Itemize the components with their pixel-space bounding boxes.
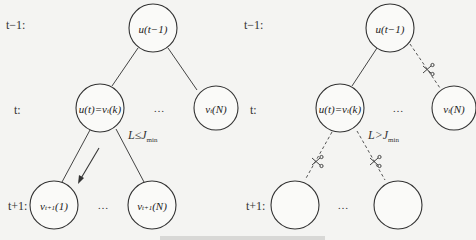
node-root-label: u(t−1) bbox=[139, 23, 168, 36]
edge-root-to-chosen bbox=[112, 48, 138, 86]
scissors-icon bbox=[423, 63, 434, 75]
node-other: vt(N) bbox=[432, 86, 476, 130]
svg-text:u(t)=vt(k): u(t)=vt(k) bbox=[79, 103, 122, 116]
node-chosen-main: u(t)=v bbox=[79, 103, 107, 116]
row-label-t: t: bbox=[250, 103, 257, 117]
condition-label: L>Jmin bbox=[367, 128, 399, 144]
caption-cropped bbox=[160, 236, 325, 240]
svg-text:u(t−1): u(t−1) bbox=[376, 23, 405, 36]
node-other: vt(N) bbox=[194, 86, 238, 130]
svg-text:u(t)=vt(k): u(t)=vt(k) bbox=[319, 103, 362, 116]
svg-text:vt(N): vt(N) bbox=[205, 103, 227, 116]
node-next-first: vt+1(1) bbox=[30, 181, 78, 229]
edge-root-to-other bbox=[168, 48, 197, 90]
ellipsis-t-plus-1: … bbox=[98, 199, 109, 211]
edge-chosen-to-first bbox=[62, 130, 90, 182]
svg-text:vt(N): vt(N) bbox=[443, 103, 465, 116]
edge-root-to-other-pruned bbox=[410, 44, 440, 88]
ellipsis-t: … bbox=[154, 102, 165, 114]
row-label-t-plus-1: t+1: bbox=[246, 199, 265, 213]
node-root: u(t−1) bbox=[366, 4, 414, 52]
svg-text:vt+1(1): vt+1(1) bbox=[40, 200, 68, 213]
ellipsis-t-plus-1: … bbox=[338, 199, 349, 211]
right-panel: t−1: t: t+1: u(t−1) bbox=[244, 4, 476, 229]
condition-label: L≤Jmin bbox=[127, 128, 158, 144]
node-next-last: vt+1(N) bbox=[128, 181, 176, 229]
ellipsis-t: … bbox=[393, 102, 404, 114]
node-chosen: u(t)=vt(k) bbox=[76, 84, 124, 132]
left-panel: t−1: t: t+1: u(t−1) u(t)=vt(k) … vt(N) bbox=[6, 4, 238, 229]
row-label-t-minus-1: t−1: bbox=[6, 18, 25, 32]
row-label-t-minus-1: t−1: bbox=[244, 18, 263, 32]
svg-text:vt+1(N): vt+1(N) bbox=[137, 200, 167, 213]
expand-arrow-icon bbox=[78, 148, 99, 184]
row-label-t: t: bbox=[14, 103, 21, 117]
node-next-first-pruned bbox=[271, 181, 319, 229]
edge-root-to-chosen bbox=[352, 48, 377, 86]
pruning-diagram: t−1: t: t+1: u(t−1) u(t)=vt(k) … vt(N) bbox=[0, 0, 476, 240]
node-root: u(t−1) bbox=[129, 4, 177, 52]
row-label-t-plus-1: t+1: bbox=[8, 199, 27, 213]
edge-chosen-to-first-pruned bbox=[305, 132, 332, 180]
node-chosen: u(t)=vt(k) bbox=[316, 84, 364, 132]
node-next-last-pruned bbox=[374, 181, 422, 229]
